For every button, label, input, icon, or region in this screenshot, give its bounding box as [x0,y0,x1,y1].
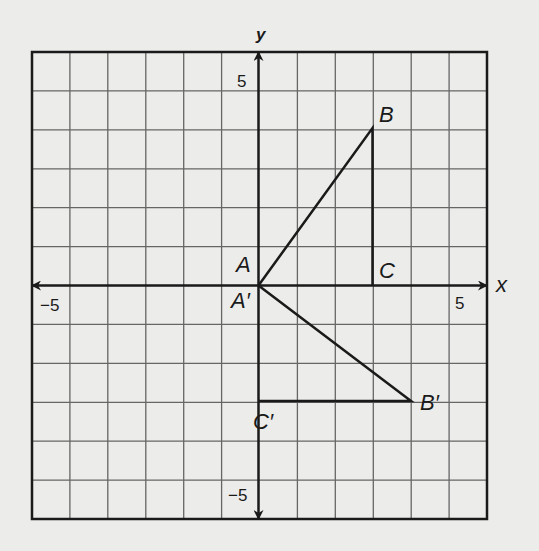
y-axis-label: y [255,25,267,44]
tick-y-neg: −5 [228,486,247,505]
point-a-label: A [234,252,251,277]
point-b-label: B [379,102,394,127]
x-axis-label: x [495,272,508,297]
point-c-prime-label: C′ [253,409,274,434]
point-a-prime-label: A′ [229,288,251,313]
triangle-abc [259,128,373,286]
point-b-prime-label: B′ [420,390,440,415]
tick-x-neg: −5 [40,296,59,315]
tick-y-pos: 5 [237,72,246,91]
coordinate-plane: y x 5 −5 −5 5 A A′ B C B′ C′ [0,0,539,551]
tick-x-pos: 5 [455,294,464,313]
point-c-label: C [379,258,395,283]
